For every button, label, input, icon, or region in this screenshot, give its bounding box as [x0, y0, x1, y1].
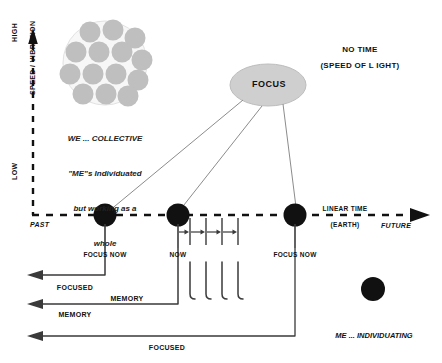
x-axis-future-label: FUTURE — [381, 222, 411, 231]
node-focus-now-future[interactable] — [284, 204, 307, 227]
node-label-now: NOW — [156, 251, 200, 259]
me-caption-line-1: ME ... INDIVIDUATING — [310, 330, 438, 341]
collective-caption-line-1: WE ... COLLECTIVE — [37, 133, 173, 145]
hook-2 — [206, 262, 211, 299]
diagram-canvas: HIGH SPEED / VIBRATION LOW PAST FUTURE L… — [0, 0, 442, 363]
x-axis-title-line1: LINEAR TIME — [308, 205, 382, 213]
no-time-title: NO TIME — [300, 44, 420, 57]
memory-label-middle: MEMORY — [82, 294, 172, 303]
tick-hooks-group — [190, 262, 243, 299]
x-axis-arrowhead-icon — [410, 208, 430, 222]
memory-label-top-line1: FOCUSED — [44, 283, 106, 292]
y-axis-high-label: HIGH — [11, 23, 20, 42]
speed-of-light-subtitle: (SPEED OF L IGHT) — [300, 60, 420, 73]
memory-arrowhead-bottom-icon — [27, 331, 43, 341]
connector-to-now — [180, 106, 262, 210]
node-label-focus-now-future: FOCUS NOW — [265, 251, 325, 259]
focus-node-label: FOCUS — [243, 79, 295, 90]
hook-1 — [190, 262, 195, 299]
y-axis-title: SPEED / VIBRATION — [29, 21, 38, 95]
memory-arrowhead-middle-icon — [27, 299, 43, 309]
tick-arrowheads — [179, 230, 237, 235]
connector-to-focus-now-future — [283, 104, 296, 207]
tick-marks-group — [179, 218, 238, 245]
me-node-dot — [361, 277, 385, 301]
collective-caption-line-3: but working as a — [37, 203, 173, 215]
memory-label-bottom-line1: FOCUSED — [120, 343, 214, 352]
memory-label-top-line2: MEMORY — [44, 310, 106, 319]
collective-caption-line-4: whole — [37, 238, 173, 250]
x-axis-title-line2: (EARTH) — [308, 221, 382, 229]
y-axis-low-label: LOW — [11, 162, 20, 180]
collective-caption-line-2: "ME"s Individuated — [37, 168, 173, 180]
hook-3 — [222, 262, 227, 299]
node-label-focus-now-past: FOCUS NOW — [75, 251, 135, 259]
collective-cluster-icon — [60, 20, 153, 107]
hook-4 — [238, 262, 243, 299]
